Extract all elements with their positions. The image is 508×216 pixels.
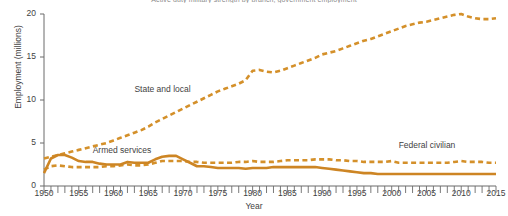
series-line-state-and-local [44,14,496,158]
employment-line-chart: Active duty military strength by branch,… [0,0,508,216]
plot-area [0,0,508,216]
series-line-armed-services [44,155,496,174]
